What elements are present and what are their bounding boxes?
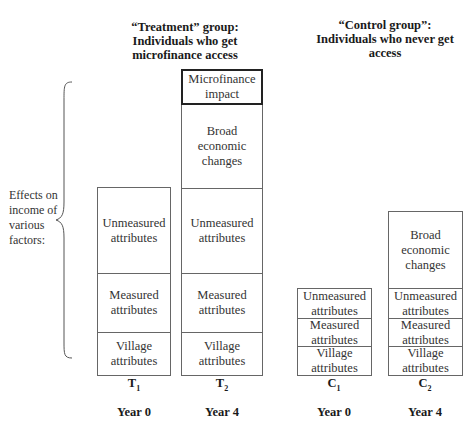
col-subscript: 1 [337,384,341,393]
c2-village-attributes: Villageattributes [388,346,463,376]
segment-label: attributes [394,304,457,319]
c1-village-attributes: Villageattributes [297,346,372,376]
segment-label: impact [188,87,255,102]
segment-label: Village [111,339,158,354]
segment-label: attributes [102,231,165,246]
curly-brace-icon [40,80,80,360]
segment-label: Village [199,339,246,354]
c1-label: C1 [294,376,374,393]
col-letter: T [128,376,136,390]
c1-year-label: Year 0 [294,405,374,420]
segment-label: Microfinance [188,72,255,87]
segment-label: Measured [109,288,158,303]
segment-label: attributes [303,304,366,319]
heading-line: “Treatment” group: [110,20,260,34]
col-letter: T [216,376,224,390]
heading-line: “Control group”: [305,18,465,32]
heading-line: microfinance access [110,48,260,62]
segment-label: economic [198,139,247,154]
t2-broad-economic-changes: Broadeconomicchanges [181,104,263,189]
segment-label: attributes [311,361,358,376]
segment-label: economic [401,243,450,258]
c2-measured-attributes: Measuredattributes [388,318,463,347]
segment-label: attributes [199,354,246,369]
segment-label: Measured [401,318,450,333]
t2-microfinance-impact: Microfinanceimpact [181,69,263,105]
t2-measured-attributes: Measuredattributes [181,273,263,333]
col-subscript: 2 [224,384,228,393]
segment-label: Unmeasured [394,289,457,304]
control-group-heading: “Control group”: Individuals who never g… [305,18,465,60]
t2-village-attributes: Villageattributes [181,332,263,376]
segment-label: attributes [109,303,158,318]
t2-unmeasured-attributes: Unmeasuredattributes [181,188,263,274]
segment-label: Measured [197,288,246,303]
t2-year-label: Year 4 [182,405,262,420]
col-subscript: 1 [136,384,140,393]
col-letter: C [418,376,427,390]
heading-line: access [305,46,465,60]
c1-unmeasured-attributes: Unmeasuredattributes [297,288,372,319]
segment-label: Unmeasured [190,216,253,231]
segment-label: Unmeasured [303,289,366,304]
segment-label: Measured [310,318,359,333]
col-subscript: 2 [428,384,432,393]
segment-label: Broad [198,124,247,139]
segment-label: attributes [190,231,253,246]
t2-label: T2 [182,376,262,393]
segment-label: changes [198,154,247,169]
t1-label: T1 [94,376,174,393]
col-letter: C [327,376,336,390]
segment-label: changes [401,258,450,273]
segment-label: Unmeasured [102,216,165,231]
c1-measured-attributes: Measuredattributes [297,318,372,347]
c2-broad-economic-changes: Broadeconomicchanges [388,211,463,289]
t1-village-attributes: Villageattributes [97,332,171,376]
t1-unmeasured-attributes: Unmeasuredattributes [97,187,171,274]
c2-unmeasured-attributes: Unmeasuredattributes [388,288,463,319]
segment-label: attributes [402,361,449,376]
segment-label: Broad [401,228,450,243]
heading-line: Individuals who get [110,34,260,48]
segment-label: attributes [197,303,246,318]
segment-label: Village [402,346,449,361]
t1-measured-attributes: Measuredattributes [97,273,171,333]
heading-line: Individuals who never get [305,32,465,46]
segment-label: attributes [111,354,158,369]
t1-year-label: Year 0 [94,405,174,420]
segment-label: Village [311,346,358,361]
c2-label: C2 [385,376,465,393]
c2-year-label: Year 4 [385,405,465,420]
treatment-group-heading: “Treatment” group: Individuals who get m… [110,20,260,62]
